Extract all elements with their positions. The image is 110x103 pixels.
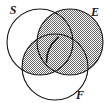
venn-diagram-figure: S E F (0, 0, 110, 103)
set-label-F: F (75, 88, 84, 102)
set-label-E: E (90, 5, 99, 19)
venn-diagram-svg: S E F (0, 0, 110, 103)
set-label-S: S (10, 3, 17, 17)
